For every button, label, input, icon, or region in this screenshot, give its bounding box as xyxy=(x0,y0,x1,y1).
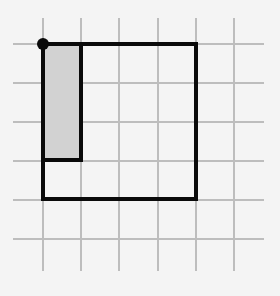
corner-dot xyxy=(37,38,49,50)
diagram-canvas xyxy=(0,0,280,296)
shaded-rectangle xyxy=(43,44,81,160)
grid-diagram xyxy=(0,0,280,296)
